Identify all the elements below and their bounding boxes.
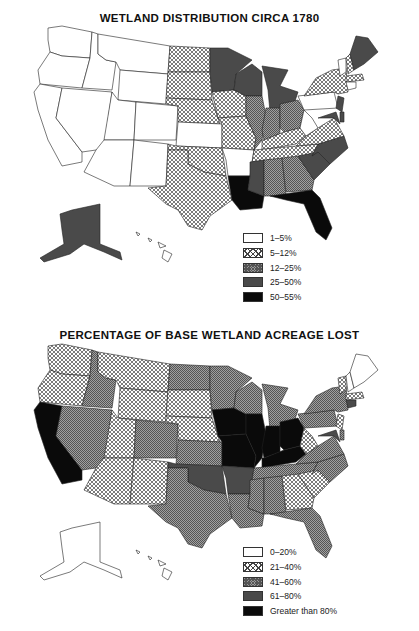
state-ia: [212, 90, 246, 118]
state-sd: [166, 72, 212, 100]
legend-label: 21–40%: [270, 562, 301, 572]
state-ma: [346, 392, 364, 400]
state-wa: [48, 26, 92, 58]
state-ar: [222, 466, 254, 494]
wetland-acreage-lost-panel: PERCENTAGE OF BASE WETLAND ACREAGE LOST …: [0, 315, 419, 631]
state-pa: [298, 92, 338, 110]
state-sd: [166, 390, 212, 418]
state-nd: [168, 46, 210, 72]
state-ma: [346, 74, 364, 82]
legend-swatch: [243, 562, 263, 572]
state-ak: [40, 522, 122, 580]
legend-label: 5–12%: [270, 248, 296, 258]
state-hi: [136, 232, 140, 236]
us-map-loss: [0, 315, 419, 631]
legend-label: 12–25%: [270, 263, 301, 273]
legend-label: 25–50%: [270, 277, 301, 287]
legend-swatch: [243, 591, 263, 601]
wetland-distribution-1780-panel: WETLAND DISTRIBUTION CIRCA 1780 1–5% 5–1…: [0, 0, 419, 315]
state-hi: [148, 238, 152, 242]
state-pa: [298, 410, 338, 428]
legend-item: 50–55%: [243, 290, 301, 305]
legend-label: 0–20%: [270, 547, 296, 557]
state-ms: [248, 160, 264, 196]
state-co: [134, 420, 178, 458]
state-me: [350, 354, 378, 388]
legend-label: 50–55%: [270, 292, 301, 302]
legend-item: 12–25%: [243, 260, 301, 275]
state-ms: [248, 478, 264, 514]
legend-label: 61–80%: [270, 591, 301, 601]
legend-swatch: [243, 248, 263, 258]
legend-swatch: [243, 606, 263, 616]
state-hi: [148, 556, 152, 560]
state-ks: [176, 440, 222, 466]
state-nd: [168, 364, 210, 390]
legend-label: 41–60%: [270, 577, 301, 587]
legend-swatch: [243, 263, 263, 273]
state-ct: [346, 400, 356, 408]
legend-swatch: [243, 277, 263, 287]
state-hi: [162, 250, 172, 262]
state-or: [38, 52, 90, 88]
state-nm: [130, 140, 168, 186]
state-wy: [118, 388, 168, 422]
state-ak: [40, 204, 122, 262]
legend-item: Greater than 80%: [243, 604, 337, 619]
state-hi: [162, 568, 172, 580]
legend-label: 1–5%: [270, 233, 292, 243]
state-hi: [136, 550, 140, 554]
state-me: [350, 36, 378, 70]
state-ia: [212, 408, 246, 436]
legend-swatch: [243, 233, 263, 243]
legend-item: 0–20%: [243, 545, 337, 560]
state-or: [38, 370, 90, 406]
legend-item: 41–60%: [243, 574, 337, 589]
legend-swatch: [243, 292, 263, 302]
legend-swatch: [243, 577, 263, 587]
legend-item: 5–12%: [243, 246, 301, 261]
legend-item: 21–40%: [243, 560, 337, 575]
map-legend: 0–20% 21–40% 41–60% 61–80% Greater than …: [243, 545, 337, 618]
state-de: [340, 430, 344, 440]
legend-item: 61–80%: [243, 589, 337, 604]
state-hi: [158, 242, 166, 248]
state-co: [134, 102, 178, 140]
state-ar: [222, 148, 254, 176]
state-ks: [176, 122, 222, 148]
state-nj: [336, 414, 344, 430]
us-map-1780: [0, 0, 419, 315]
state-nj: [336, 96, 344, 112]
map-legend: 1–5% 5–12% 12–25% 25–50% 50–55%: [243, 231, 301, 304]
state-wy: [118, 70, 168, 104]
state-wa: [48, 344, 92, 376]
state-ct: [346, 82, 356, 90]
legend-item: 25–50%: [243, 275, 301, 290]
state-hi: [158, 560, 166, 566]
state-de: [340, 112, 344, 122]
legend-label: Greater than 80%: [270, 606, 337, 616]
state-nm: [130, 458, 168, 504]
legend-item: 1–5%: [243, 231, 301, 246]
legend-swatch: [243, 547, 263, 557]
